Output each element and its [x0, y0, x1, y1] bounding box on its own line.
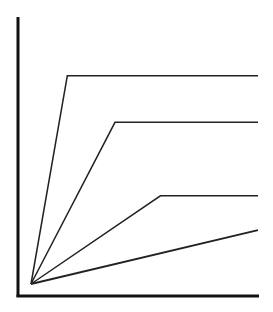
line-chart	[0, 0, 273, 312]
series-group	[31, 76, 258, 284]
series-line-4	[31, 230, 258, 284]
series-line-3	[31, 196, 258, 284]
series-line-1	[31, 76, 258, 284]
series-line-2	[31, 122, 258, 284]
